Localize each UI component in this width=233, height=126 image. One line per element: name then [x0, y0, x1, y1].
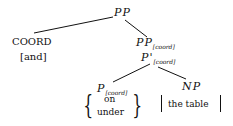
node-subscript: [coord]: [153, 43, 175, 50]
lexical-option: on: [104, 94, 115, 104]
node-label: P': [141, 51, 153, 64]
node-label: NP: [182, 80, 201, 93]
node-pp-root: PP: [114, 7, 131, 18]
node-pbar-coord: P'[coord]: [141, 52, 175, 65]
edge-pbar-pcoord: [113, 64, 150, 82]
lexical-item: [and]: [20, 51, 47, 62]
left-bar: [161, 95, 162, 112]
edge-pp-coord: [34, 17, 113, 33]
node-np-word: the table: [168, 100, 209, 109]
left-brace: {: [83, 92, 93, 118]
option-under: under: [97, 108, 124, 117]
right-brace: }: [132, 92, 142, 118]
node-coord-word: [and]: [20, 52, 47, 62]
right-bar: [220, 95, 221, 112]
edge-pbar-np: [158, 67, 186, 79]
node-subscript: [coord]: [153, 58, 175, 65]
node-np: NP: [182, 81, 201, 92]
lexical-item: the table: [168, 99, 209, 109]
option-on: on: [104, 95, 115, 104]
node-label: PP: [136, 36, 153, 49]
edge-pp-ppcoord: [125, 20, 147, 37]
node-coord: COORD: [12, 37, 52, 47]
lexical-option: under: [97, 107, 124, 117]
node-pp-coord: PP[coord]: [136, 37, 175, 50]
node-label: COORD: [12, 36, 52, 47]
node-label: PP: [114, 6, 131, 19]
